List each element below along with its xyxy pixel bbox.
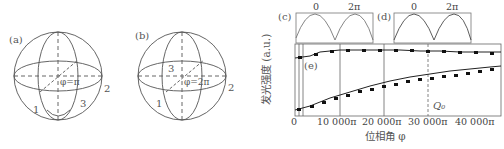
panel-label-d: (d) bbox=[377, 11, 391, 22]
inset-c bbox=[296, 13, 373, 43]
inset-c-tick-0: 0 bbox=[313, 1, 319, 12]
panel-label-b: (b) bbox=[135, 30, 149, 41]
path-number-3-b: 3 bbox=[168, 63, 174, 74]
inset-d bbox=[394, 13, 471, 43]
panel-label-c: (c) bbox=[278, 11, 291, 22]
path-number-1-a: 1 bbox=[33, 104, 39, 115]
y-axis-label: 发光强度 (a.u.) bbox=[258, 34, 273, 105]
panel-label-a: (a) bbox=[9, 34, 23, 45]
inset-c-tick-2pi: 2π bbox=[348, 1, 360, 12]
path-number-2-b: 2 bbox=[228, 82, 234, 93]
bloch-sphere-a bbox=[14, 32, 102, 120]
lower-markers bbox=[297, 68, 494, 111]
path-number-2-a: 2 bbox=[104, 83, 110, 94]
x-tick-0: 0 bbox=[291, 116, 297, 127]
panel-label-e: (e) bbox=[304, 60, 318, 71]
upper-markers bbox=[298, 49, 494, 59]
inset-d-tick-0: 0 bbox=[411, 1, 417, 12]
x-tick-20000pi: 20 000π bbox=[362, 116, 401, 127]
inset-d-tick-2pi: 2π bbox=[446, 1, 458, 12]
phase-label-b: φ=2π bbox=[184, 77, 209, 87]
x-axis-label: 位相角 φ bbox=[365, 128, 406, 143]
bloch-sphere-b bbox=[138, 32, 226, 120]
q0-annotation: Q₀ bbox=[433, 100, 445, 111]
path-number-1-b: 1 bbox=[156, 98, 162, 109]
x-tick-10000pi: 10 000π bbox=[317, 116, 356, 127]
phase-label-a: φ=π bbox=[60, 77, 80, 87]
x-tick-30000pi: 30 000π bbox=[408, 116, 447, 127]
main-plot bbox=[295, 44, 501, 116]
path-number-3-a: 3 bbox=[80, 98, 86, 109]
x-tick-40000pi: 40 000π bbox=[455, 116, 494, 127]
